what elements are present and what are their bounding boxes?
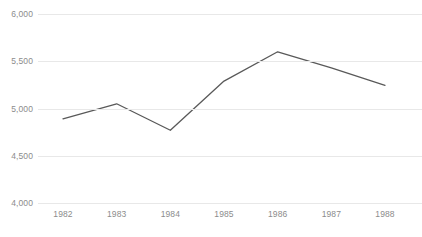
x-axis-tick-label: 1985 [204,209,244,219]
gridline-y [38,14,422,15]
gridline-y [38,156,422,157]
y-axis-tick-label: 6,000 [0,9,33,19]
x-axis-tick-label: 1987 [311,209,351,219]
line-chart: ▬ 4,0004,5005,0005,5006,0001982198319841… [0,0,422,237]
x-axis-tick-label: 1984 [150,209,190,219]
y-axis-tick-label: 4,000 [0,198,33,208]
y-axis-tick-label: 5,500 [0,56,33,66]
x-axis-tick-label: 1983 [97,209,137,219]
y-axis-tick-label: 4,500 [0,151,33,161]
data-series-line [63,52,385,130]
x-axis-tick-label: 1988 [365,209,405,219]
plot-area: 4,0004,5005,0005,5006,000198219831984198… [0,0,422,237]
gridline-y [38,109,422,110]
gridline-y [38,61,422,62]
x-axis-tick-label: 1986 [258,209,298,219]
gridline-y [38,203,422,204]
series-line-1 [0,0,422,237]
y-axis-tick-label: 5,000 [0,104,33,114]
x-axis-tick-label: 1982 [43,209,83,219]
